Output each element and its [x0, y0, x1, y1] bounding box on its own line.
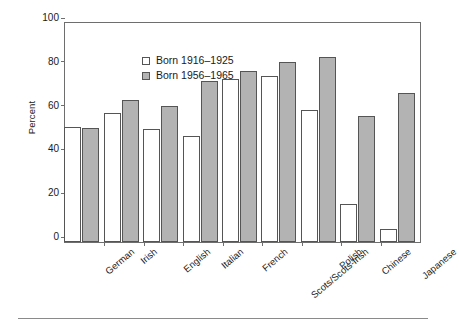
- chart-legend: Born 1916–1925Born 1956–1965: [142, 53, 234, 83]
- bar[interactable]: [240, 71, 257, 242]
- bar[interactable]: [301, 110, 318, 242]
- bar[interactable]: [122, 100, 139, 242]
- open-square-icon: [142, 57, 150, 65]
- bar[interactable]: [222, 79, 239, 242]
- bar-group: [65, 23, 104, 242]
- bar[interactable]: [104, 113, 121, 242]
- bar[interactable]: [358, 116, 375, 242]
- x-axis-label-chinese: Chinese: [379, 246, 413, 277]
- bar-group: [262, 23, 301, 242]
- bar-group: [104, 23, 143, 242]
- y-axis-tick-20: 20: [15, 188, 65, 198]
- bottom-rule: [18, 318, 428, 319]
- y-axis-tick-80: 80: [15, 57, 65, 67]
- x-axis-label-irish: Irish: [138, 246, 159, 266]
- bar[interactable]: [398, 93, 415, 242]
- y-axis-tick-40: 40: [15, 144, 65, 154]
- bar[interactable]: [201, 81, 218, 242]
- legend-label: Born 1916–1925: [156, 55, 234, 66]
- x-axis-label-french: French: [259, 246, 289, 273]
- bar[interactable]: [143, 129, 160, 242]
- bar-group: [341, 23, 380, 242]
- bar-group: [381, 23, 420, 242]
- x-axis-label-german: German: [103, 246, 136, 276]
- legend-item[interactable]: Born 1916–1925: [142, 53, 234, 68]
- x-axis-labels: GermanIrishEnglishItalianFrenchScots/Sco…: [64, 246, 421, 326]
- x-axis-label-japanese: Japanese: [420, 246, 459, 281]
- bar[interactable]: [261, 76, 278, 242]
- legend-item[interactable]: Born 1956–1965: [142, 68, 234, 83]
- y-axis-tick-60: 60: [15, 101, 65, 111]
- legend-label: Born 1956–1965: [156, 70, 234, 81]
- x-axis-label-english: English: [181, 246, 212, 274]
- filled-square-icon: [142, 72, 150, 80]
- bar[interactable]: [279, 62, 296, 242]
- bars-layer: 020406080100: [65, 23, 420, 242]
- bar[interactable]: [161, 106, 178, 242]
- bar[interactable]: [319, 57, 336, 242]
- plot-area: 020406080100 Born 1916–1925Born 1956–196…: [64, 22, 421, 243]
- y-axis-tick-100: 100: [15, 13, 65, 23]
- bar[interactable]: [82, 128, 99, 242]
- bar[interactable]: [183, 136, 200, 242]
- bar[interactable]: [340, 204, 357, 242]
- bar-group: [302, 23, 341, 242]
- x-axis-label-italian: Italian: [219, 246, 245, 271]
- y-axis-tick-0: 0: [15, 232, 65, 242]
- bar[interactable]: [64, 127, 81, 242]
- bar[interactable]: [380, 229, 397, 242]
